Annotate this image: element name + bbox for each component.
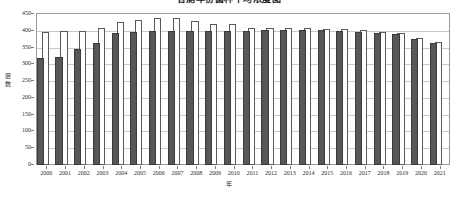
bar-group [412,14,431,165]
y-axis-tick-mark [31,164,34,165]
x-axis-tick-label: 2010 [224,170,243,177]
y-axis-tick-label: 100 [22,127,31,133]
x-axis-tick-label: 2011 [243,170,262,177]
y-axis-tick-mark [31,114,34,115]
x-axis-tick-mark [84,166,85,169]
y-axis-tick-label: 150 [22,111,31,117]
bar-group [430,14,449,165]
bar-group [224,14,243,165]
bar-dark [74,49,81,165]
x-axis-tick-mark [383,166,384,169]
bar-dark [112,33,119,165]
bars-layer [37,14,449,165]
y-axis-tick-mark [31,97,34,98]
bar-dark [186,31,193,165]
x-axis-tick-label: 2014 [299,170,318,177]
bar-group [299,14,318,165]
x-axis-tick-mark [346,166,347,169]
bar-dark [37,58,44,165]
x-axis-tick-label: 2004 [112,170,131,177]
bar-dark [411,39,418,165]
x-axis-tick-mark [140,166,141,169]
x-axis-tick-label: 2016 [337,170,356,177]
x-axis-tick-mark [196,166,197,169]
y-axis-tick-label: 200 [22,94,31,100]
x-axis-tick-mark [234,166,235,169]
x-axis: 2000200120022003200420052006200720082009… [37,166,449,180]
y-axis: 050100150200250300350400450 [0,13,34,165]
bar-group [206,14,225,165]
bar-group [318,14,337,165]
x-axis-tick-mark [159,166,160,169]
bar-dark [336,31,343,165]
y-axis-tick-mark [31,47,34,48]
bar-dark [130,32,137,165]
bar-group [74,14,93,165]
x-axis-tick-label: 2012 [262,170,281,177]
bar-group [56,14,75,165]
y-axis-tick-mark [31,80,34,81]
bar-dark [205,31,212,165]
bar-group [93,14,112,165]
x-axis-tick-mark [309,166,310,169]
bar-group [131,14,150,165]
bar-group [280,14,299,165]
y-axis-tick-mark [31,130,34,131]
bar-dark [243,31,250,165]
x-axis-tick-mark [65,166,66,169]
x-axis-tick-mark [177,166,178,169]
x-axis-tick-label: 2013 [280,170,299,177]
bar-dark [261,30,268,165]
x-axis-tick-label: 2020 [412,170,431,177]
bar-dark [280,30,287,165]
bar-dark [318,30,325,165]
bar-dark [149,31,156,165]
x-axis-tick-label: 2002 [74,170,93,177]
bar-group [243,14,262,165]
x-axis-tick-mark [271,166,272,169]
y-axis-label: 层数 [4,72,13,88]
x-axis-tick-mark [103,166,104,169]
bar-group [393,14,412,165]
bar-group [187,14,206,165]
x-axis-tick-mark [290,166,291,169]
bar-group [37,14,56,165]
x-axis-tick-label: 2018 [374,170,393,177]
x-axis-tick-label: 2009 [206,170,225,177]
y-axis-tick-mark [31,30,34,31]
bar-group [262,14,281,165]
bar-group [355,14,374,165]
bar-dark [374,33,381,165]
bar-group [374,14,393,165]
chart-figure: 各测年份菌种平均浓度图 050100150200250300350400450 … [0,0,458,206]
x-axis-tick-mark [402,166,403,169]
x-axis-tick-label: 2003 [93,170,112,177]
y-axis-tick-mark [31,147,34,148]
x-axis-tick-mark [46,166,47,169]
bar-dark [430,43,437,165]
bar-group [149,14,168,165]
y-axis-tick-mark [31,63,34,64]
x-axis-tick-mark [421,166,422,169]
bar-dark [299,30,306,165]
x-axis-tick-label: 2005 [131,170,150,177]
bar-group [337,14,356,165]
bar-group [168,14,187,165]
x-axis-tick-label: 2008 [187,170,206,177]
y-axis-tick-label: 300 [22,60,31,66]
x-axis-tick-label: 2017 [355,170,374,177]
bar-dark [355,32,362,165]
x-axis-tick-mark [327,166,328,169]
bar-dark [168,31,175,165]
x-axis-tick-label: 2000 [37,170,56,177]
y-axis-tick-label: 250 [22,77,31,83]
x-axis-tick-label: 2001 [56,170,75,177]
chart-title: 各测年份菌种平均浓度图 [0,0,458,5]
x-axis-tick-label: 2015 [318,170,337,177]
bar-dark [392,34,399,165]
x-axis-tick-label: 2019 [393,170,412,177]
x-axis-tick-mark [215,166,216,169]
x-axis-tick-label: 2007 [168,170,187,177]
y-axis-tick-mark [31,13,34,14]
y-axis-tick-label: 350 [22,44,31,50]
